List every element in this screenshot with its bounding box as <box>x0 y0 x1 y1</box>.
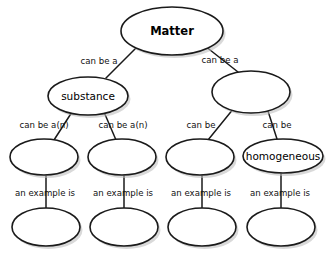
edge-label-e-mixture-homog: can be <box>263 120 292 130</box>
node-heterog[interactable] <box>166 139 237 178</box>
node-outline[interactable] <box>166 139 234 175</box>
edge-label-e-element-ex1: an example is <box>15 188 76 198</box>
node-label: substance <box>61 90 115 102</box>
node-homogeneous[interactable]: homogeneous <box>243 139 326 176</box>
node-outline[interactable] <box>88 139 156 175</box>
node-outline[interactable] <box>10 139 78 175</box>
node-compound[interactable] <box>88 139 159 178</box>
node-label: homogeneous <box>246 150 321 162</box>
concept-map: Mattersubstancehomogeneous can be acan b… <box>0 0 330 262</box>
node-ex2[interactable] <box>90 208 161 249</box>
edge-label-e-matter-substance: can be a <box>81 56 118 66</box>
edge-label-e-heterog-ex3: an example is <box>171 188 232 198</box>
node-mixture[interactable] <box>212 71 293 116</box>
edge-label-e-compound-ex2: an example is <box>93 188 154 198</box>
node-outline[interactable] <box>90 208 158 246</box>
edge-label-e-substance-element: can be a(n) <box>19 120 68 130</box>
node-outline[interactable] <box>12 208 80 246</box>
edge-layer <box>46 46 281 208</box>
node-matter[interactable]: Matter <box>121 7 226 58</box>
concept-map-canvas: Mattersubstancehomogeneous can be acan b… <box>0 0 330 262</box>
node-element[interactable] <box>10 139 81 178</box>
edge-label-e-matter-mixture: can be a <box>202 55 239 65</box>
node-outline[interactable] <box>247 208 315 246</box>
node-ex3[interactable] <box>168 208 239 249</box>
node-ex4[interactable] <box>247 208 318 249</box>
node-label: Matter <box>150 24 194 38</box>
node-outline[interactable] <box>212 71 290 113</box>
edge-label-e-substance-compound: can be a(n) <box>98 120 147 130</box>
node-outline[interactable] <box>168 208 236 246</box>
node-substance[interactable]: substance <box>48 77 131 118</box>
node-ex1[interactable] <box>12 208 83 249</box>
edge-label-e-mixture-heterog: can be <box>187 120 216 130</box>
edge-label-e-homog-ex4: an example is <box>250 188 311 198</box>
